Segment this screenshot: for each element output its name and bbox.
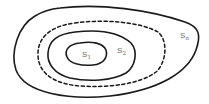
label-sn: Sn <box>180 31 189 41</box>
nested-sets-diagram: S1 S2 Sn <box>0 0 209 104</box>
label-s1: S1 <box>82 50 91 60</box>
label-s2: S2 <box>117 46 126 56</box>
region-s2-curve <box>48 31 135 80</box>
